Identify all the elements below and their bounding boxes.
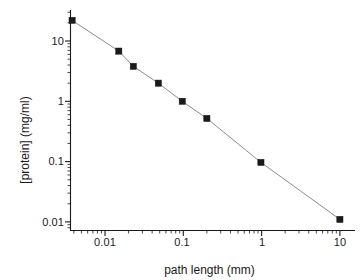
x-tick-label-3: 10	[334, 236, 346, 248]
data-point-3	[155, 80, 161, 86]
data-point-5	[204, 115, 210, 121]
data-point-2	[130, 63, 136, 69]
y-axis-ticks	[65, 12, 71, 228]
chart-figure: 10 1 0.1 0.01 0.01 0.1 1 10 path length …	[0, 0, 361, 280]
data-point-0	[69, 17, 75, 23]
data-point-6	[258, 159, 264, 165]
axis-lines	[70, 10, 355, 231]
x-axis-title: path length (mm)	[0, 263, 361, 277]
x-tick-label-2: 1	[259, 236, 265, 248]
x-tick-label-1: 0.1	[174, 236, 190, 248]
x-tick-label-0: 0.01	[94, 236, 116, 248]
y-tick-label-0: 10	[22, 35, 64, 47]
data-point-7	[337, 216, 343, 222]
data-point-4	[179, 98, 185, 104]
data-point-1	[116, 48, 122, 54]
y-axis-title: [protein] (mg/ml)	[18, 60, 34, 220]
